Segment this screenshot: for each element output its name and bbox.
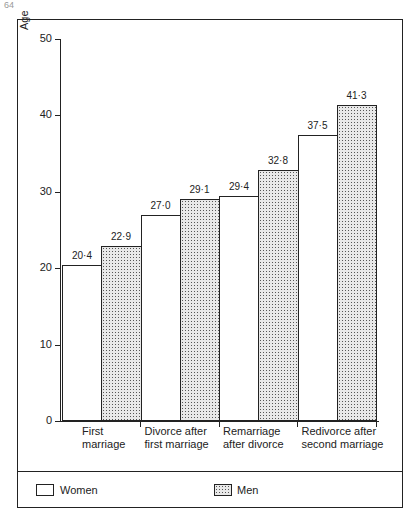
value-label: 37·5 [298,120,338,131]
category-label: Remarriageafter divorce [223,425,284,451]
value-label: 27·0 [141,200,181,211]
category-label-line: after divorce [223,438,284,451]
legend-label-men: Men [237,484,258,496]
category-label: Divorce afterfirst marriage [145,425,209,451]
category-label: Redivorce aftersecond marriage [302,425,384,451]
y-tick-label: 50 [22,32,52,44]
category-label-line: first marriage [145,438,209,451]
y-tick [55,345,61,346]
bar-men [337,105,378,421]
legend-label-women: Women [60,484,98,496]
legend-swatch-women [36,484,54,496]
legend-divider [17,471,403,472]
bar-men [101,246,142,421]
x-tick [140,421,141,427]
y-axis [60,39,61,421]
value-label: 32·8 [258,155,298,166]
category-label: Firstmarriage [82,425,125,451]
bar-men [180,199,221,421]
bar-women [298,135,339,422]
bar-men [258,170,299,421]
category-label-line: Redivorce after [302,425,384,438]
x-tick [219,421,220,427]
value-label: 29·1 [180,184,220,195]
y-tick-label: 10 [22,338,52,350]
y-tick [55,421,61,422]
value-label: 20·4 [62,250,102,261]
bar-women [141,215,182,421]
y-tick [55,192,61,193]
category-label-line: Divorce after [145,425,209,438]
x-tick [297,421,298,427]
y-tick [55,39,61,40]
y-tick [55,115,61,116]
bar-women [62,265,103,421]
y-axis-label: Age [18,10,30,30]
bar-women [219,196,260,421]
x-axis [60,421,379,422]
value-label: 29·4 [219,181,259,192]
legend-swatch-men [214,484,232,496]
category-label-line: second marriage [302,438,384,451]
value-label: 41·3 [337,90,377,101]
y-tick [55,268,61,269]
category-label-line: marriage [82,438,125,451]
y-tick-label: 30 [22,185,52,197]
y-tick-label: 0 [22,414,52,426]
value-label: 22·9 [101,231,141,242]
y-tick-label: 40 [22,108,52,120]
page-number: 64 [4,0,14,10]
category-label-line: First [82,425,125,438]
category-label-line: Remarriage [223,425,284,438]
y-tick-label: 20 [22,261,52,273]
